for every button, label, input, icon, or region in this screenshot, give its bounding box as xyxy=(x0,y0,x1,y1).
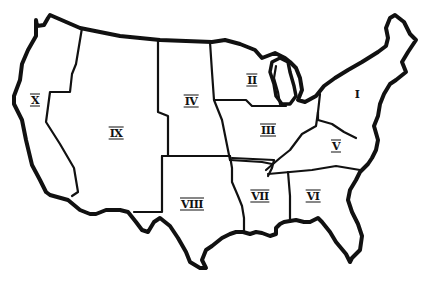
region-label-v: V xyxy=(331,140,341,153)
border-ix-viii xyxy=(134,156,168,212)
region-label-iii: III xyxy=(260,124,276,137)
border-iii-vii xyxy=(230,156,244,232)
region-label-x: X xyxy=(30,94,40,107)
border-iv-ii xyxy=(210,42,214,100)
region-label-ii: II xyxy=(246,74,257,87)
us-regions-map xyxy=(0,0,426,284)
region-label-ix: IX xyxy=(109,127,124,140)
region-label-i: I xyxy=(354,89,361,100)
border-ii-iii xyxy=(214,100,286,106)
region-label-viii: VIII xyxy=(180,198,204,211)
us-outline xyxy=(14,15,416,268)
border-vii-vi xyxy=(288,172,290,222)
region-label-vi: VI xyxy=(306,190,321,203)
border-v-vi xyxy=(268,166,360,174)
border-x-ix xyxy=(46,28,82,196)
border-ix-iv xyxy=(158,40,168,156)
region-label-vii: VII xyxy=(250,190,269,203)
border-i-v xyxy=(318,112,356,138)
border-iv-iii xyxy=(214,100,230,160)
region-label-iv: IV xyxy=(184,95,199,108)
